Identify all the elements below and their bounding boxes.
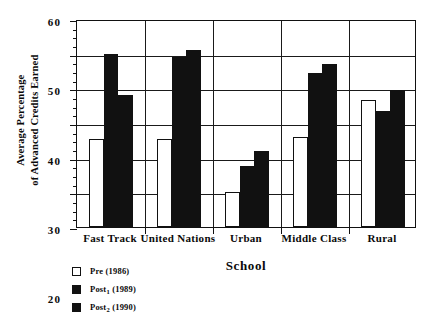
y-axis-minor-tick [73, 212, 77, 213]
bar [293, 137, 308, 227]
x-axis-category-label: Rural [368, 232, 397, 244]
x-axis-category-label: Urban [230, 232, 262, 244]
y-axis-title-line1: Average Percentage [15, 54, 29, 185]
x-axis-tick [349, 227, 350, 234]
legend-item: Post2 (1990) [72, 298, 232, 316]
bar [361, 100, 376, 227]
y-axis-tick-label: 30 [48, 224, 61, 236]
x-axis-category-label: Fast Track [83, 232, 137, 244]
gridline-horizontal [77, 90, 415, 91]
y-axis-tick: 60 [70, 21, 77, 22]
legend-label-post1: Post1 (1989) [90, 284, 136, 295]
y-axis-minor-tick [73, 134, 77, 135]
legend-swatch-post2 [72, 303, 81, 312]
bar [390, 90, 405, 227]
bar [225, 192, 240, 227]
y-axis-minor-tick [73, 186, 77, 187]
bar [322, 64, 337, 227]
legend-swatch-post1 [72, 285, 81, 294]
y-axis-minor-tick [73, 116, 77, 117]
gridline-category-separator [213, 21, 214, 227]
gridline-category-separator [349, 21, 350, 227]
y-axis-minor-tick [73, 38, 77, 39]
y-axis-minor-tick [73, 30, 77, 31]
y-axis-minor-tick [73, 47, 77, 48]
legend-swatch-pre [72, 267, 81, 276]
y-axis-minor-tick [73, 73, 77, 74]
bar [172, 57, 187, 227]
plot-area: 0102030405060 [76, 20, 416, 228]
y-axis-tick: 30 [70, 125, 77, 126]
y-axis-minor-tick [73, 142, 77, 143]
y-axis-minor-tick [73, 64, 77, 65]
legend-label-post2: Post2 (1990) [90, 302, 136, 313]
y-axis-tick: 20 [70, 160, 77, 161]
y-axis-tick: 10 [70, 194, 77, 195]
legend-label-pre: Pre (1986) [90, 266, 129, 276]
y-axis-minor-tick [73, 203, 77, 204]
y-axis-tick-label: 60 [48, 16, 61, 28]
bar [308, 73, 323, 227]
y-axis-minor-tick [73, 220, 77, 221]
y-axis-tick: 50 [70, 56, 77, 57]
bar [89, 139, 104, 227]
y-axis-tick: 40 [70, 90, 77, 91]
x-axis-category-label: Middle Class [281, 232, 346, 244]
chart-legend: Pre (1986) Post1 (1989) Post2 (1990) [72, 262, 232, 316]
gridline-category-separator [281, 21, 282, 227]
y-axis-minor-tick [73, 151, 77, 152]
bar-chart-figure: Average Percentage of Advanced Credits E… [0, 0, 437, 323]
legend-item: Post1 (1989) [72, 280, 232, 298]
y-axis-minor-tick [73, 82, 77, 83]
bar [157, 139, 172, 227]
y-axis-minor-tick [73, 99, 77, 100]
y-axis-tick-label: 40 [48, 155, 61, 167]
gridline-horizontal [77, 56, 415, 57]
bar [104, 54, 119, 227]
y-axis-minor-tick [73, 177, 77, 178]
y-axis-title-line2: of Advanced Credits Earned [29, 54, 43, 185]
bar [186, 50, 201, 227]
bar [254, 151, 269, 227]
y-axis-title: Average Percentage of Advanced Credits E… [6, 0, 52, 240]
gridline-category-separator [145, 21, 146, 227]
y-axis-minor-tick [73, 168, 77, 169]
y-axis-tick: 0 [70, 229, 77, 230]
bar [118, 95, 133, 227]
legend-item: Pre (1986) [72, 262, 232, 280]
bar [240, 166, 255, 227]
y-axis-minor-tick [73, 108, 77, 109]
x-axis-category-label: United Nations [141, 232, 216, 244]
bar [376, 111, 391, 227]
y-axis-tick-label: 50 [48, 85, 61, 97]
y-axis-tick-label: 20 [48, 293, 61, 305]
